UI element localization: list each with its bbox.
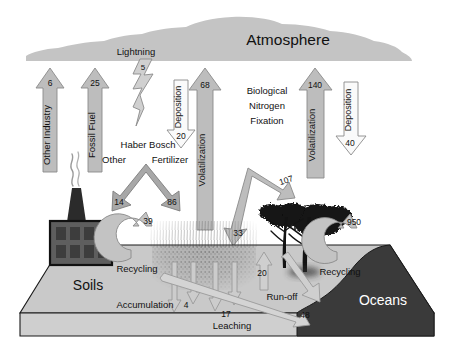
deposition-ocean-value: 40	[345, 138, 355, 148]
bnf-label-line1: Biological	[247, 85, 288, 96]
volatilization-land-value: 68	[200, 80, 210, 90]
haber-bosch-label: Haber Bosch	[121, 139, 176, 150]
factory-chimney	[67, 188, 86, 222]
volatilization-land-flux: 68 Volatilization	[189, 68, 221, 230]
bnf-value-natural: 107	[278, 173, 295, 187]
recycling-ocean-value: 950	[347, 217, 361, 227]
bnf-label-line2: Nitrogen	[249, 100, 285, 111]
runoff-value: 48	[300, 310, 310, 320]
atmosphere-reservoir: Atmosphere	[26, 17, 412, 61]
deposition-land-label: Deposition	[173, 86, 183, 129]
bnf-label-line3: Fixation	[250, 115, 283, 126]
volatilization-ocean-label: Volatilization	[306, 109, 317, 162]
volatilization-ocean-flux: 140 Volatilization	[299, 68, 332, 178]
haber-bosch-other-label: Other	[102, 154, 126, 165]
leaching-label: Leaching	[213, 320, 252, 331]
lightning-value: 5	[141, 63, 146, 72]
other-industry-value: 6	[48, 78, 53, 88]
haber-bosch-flux: Haber Bosch Other Fertilizer 14 86	[102, 139, 188, 211]
haber-bosch-other-value: 14	[114, 197, 124, 207]
volatilization-land-label: Volatilization	[196, 134, 207, 187]
crop-shade	[152, 246, 256, 290]
haber-bosch-fertilizer-value: 86	[167, 197, 177, 207]
deposition-land-value: 20	[176, 131, 186, 141]
accumulation-secondary-value: 17	[221, 309, 231, 319]
nitrogen-cycle-diagram: Atmosphere Lightning 5 6 Other Industry …	[0, 0, 452, 354]
oceans-label: Oceans	[359, 292, 407, 308]
deposition-ocean-flux: Deposition 40	[336, 82, 366, 155]
leaching-value: 20	[257, 268, 267, 278]
accumulation-value: 4	[184, 300, 189, 310]
atmosphere-cloud-shape	[26, 17, 412, 61]
deposition-ocean-label: Deposition	[343, 89, 353, 132]
recycling-soil-label: Recycling	[116, 263, 157, 274]
recycling-ocean-label: Recycling	[319, 266, 360, 277]
factory-smoke-2	[77, 152, 80, 186]
recycling-soil-value: 39	[143, 216, 153, 226]
factory-smoke-1	[71, 154, 74, 186]
other-industry-label: Other Industry	[41, 105, 52, 165]
grass-blades	[150, 221, 258, 247]
soils-label: Soils	[73, 277, 103, 293]
runoff-label: Run-off	[267, 291, 298, 302]
fossil-fuel-value: 25	[90, 78, 100, 88]
fossil-fuel-label: Fossil Fuel	[86, 112, 97, 158]
atmosphere-label: Atmosphere	[246, 31, 330, 48]
other-industry-flux: 6 Other Industry	[36, 68, 64, 172]
haber-bosch-fertilizer-label: Fertilizer	[152, 154, 188, 165]
volatilization-ocean-value: 140	[308, 80, 322, 90]
lightning-label: Lightning	[117, 46, 156, 57]
accumulation-label: Accumulation	[116, 299, 173, 310]
